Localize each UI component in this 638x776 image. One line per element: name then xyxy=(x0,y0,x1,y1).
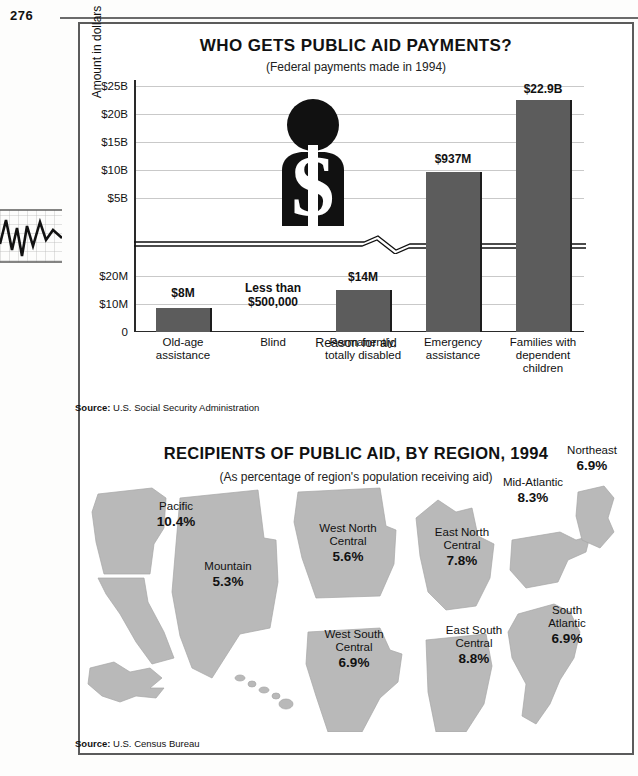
region-name: Mid-Atlantic xyxy=(503,476,563,488)
region-label-northeast: Northeast 6.9% xyxy=(567,444,617,473)
y-tick-label: $20M xyxy=(99,270,128,282)
region-name-line2: Central xyxy=(455,637,492,649)
bar-value-label: $8M xyxy=(171,286,194,300)
region-value: 6.9% xyxy=(548,631,586,646)
chart1-subtitle: (Federal payments made in 1994) xyxy=(80,60,632,74)
region-name-line2: Central xyxy=(329,535,366,547)
region-value: 6.9% xyxy=(324,655,383,670)
bar-chart-public-aid-payments: WHO GETS PUBLIC AID PAYMENTS? (Federal p… xyxy=(80,24,632,414)
page: 276 WHO GETS PUBLIC AID PAYMENTS? (Feder… xyxy=(0,0,638,776)
cat-line: children xyxy=(523,362,563,374)
bar-value-label: $22.9B xyxy=(524,82,563,96)
region-name-line1: West North xyxy=(319,522,376,534)
map-region-mid-atlantic xyxy=(510,532,590,588)
bar-value-label: $937M xyxy=(435,152,472,166)
region-label-east-south-central: East South Central 8.8% xyxy=(446,624,502,666)
region-name-line1: South xyxy=(552,604,582,616)
region-label-mid-atlantic: Mid-Atlantic 8.3% xyxy=(503,476,563,505)
region-value: 10.4% xyxy=(157,514,195,529)
bar-families-with-dependent-children[interactable] xyxy=(516,100,572,332)
chart1-source: Source: U.S. Social Security Administrat… xyxy=(75,402,259,413)
bar-old-age-assistance[interactable] xyxy=(156,308,212,332)
y-axis-line xyxy=(134,80,136,332)
region-name-line2: Atlantic xyxy=(548,617,586,629)
bar-value-label-blind: Less than $500,000 xyxy=(218,282,328,310)
region-label-west-south-central: West South Central 6.9% xyxy=(324,628,383,670)
chart2-source-label: Source: xyxy=(75,738,110,749)
map-chart-recipients-by-region: RECIPIENTS OF PUBLIC AID, BY REGION, 199… xyxy=(80,422,632,755)
map-region-pacific-ca xyxy=(98,578,174,664)
map-region-pacific-hi xyxy=(235,675,293,709)
chart1-title: WHO GETS PUBLIC AID PAYMENTS? xyxy=(80,36,632,56)
region-value: 6.9% xyxy=(567,458,617,473)
chart1-source-label: Source: xyxy=(75,402,110,413)
bar-emergency-assistance[interactable] xyxy=(426,172,482,332)
svg-text:$: $ xyxy=(292,138,335,234)
gridline xyxy=(134,86,584,87)
y-tick-label: $10M xyxy=(99,298,128,310)
region-label-south-atlantic: South Atlantic 6.9% xyxy=(548,604,586,646)
region-label-west-north-central: West North Central 5.6% xyxy=(319,522,376,564)
y-tick-label: $10B xyxy=(101,164,128,176)
region-name: Northeast xyxy=(567,444,617,456)
region-value: 5.6% xyxy=(319,549,376,564)
region-name-line1: West South xyxy=(324,628,383,640)
chart1-source-text: U.S. Social Security Administration xyxy=(113,402,259,413)
region-name: Mountain xyxy=(204,560,251,572)
region-label-east-north-central: East North Central 7.8% xyxy=(435,526,489,568)
page-number: 276 xyxy=(10,8,33,23)
y-tick-label: $15B xyxy=(101,136,128,148)
blind-label-line1: Less than xyxy=(245,281,301,295)
cat-line: assistance xyxy=(426,349,480,361)
person-with-dollar-sign-icon: $ xyxy=(274,98,352,238)
region-name: Pacific xyxy=(159,500,193,512)
chart2-title: RECIPIENTS OF PUBLIC AID, BY REGION, 199… xyxy=(80,444,632,463)
bar-value-label: $14M xyxy=(348,270,378,284)
content-frame: WHO GETS PUBLIC AID PAYMENTS? (Federal p… xyxy=(78,22,634,755)
region-name-line2: Central xyxy=(443,539,480,551)
chart2-source: Source: U.S. Census Bureau xyxy=(75,738,200,749)
region-name-line2: Central xyxy=(335,641,372,653)
region-name-line1: East North xyxy=(435,526,489,538)
region-value: 8.3% xyxy=(503,490,563,505)
blind-label-line2: $500,000 xyxy=(248,295,298,309)
region-label-mountain: Mountain 5.3% xyxy=(204,560,251,589)
chart2-source-text: U.S. Census Bureau xyxy=(113,738,200,749)
map-region-northeast xyxy=(576,486,614,548)
waveform-decoration-icon xyxy=(0,206,62,270)
y-tick-label: $20B xyxy=(101,108,128,120)
cat-line: totally disabled xyxy=(325,349,401,361)
region-value: 8.8% xyxy=(446,651,502,666)
chart1-x-axis-title: Reason for aid xyxy=(80,336,632,350)
header-rule xyxy=(60,17,638,19)
region-value: 7.8% xyxy=(435,553,489,568)
chart1-plot-area: Amount in dollars $25B $20B $15B $10B $5… xyxy=(134,80,584,332)
cat-line: assistance xyxy=(156,349,210,361)
bar-permanently-totally-disabled[interactable] xyxy=(336,290,392,332)
region-name-line1: East South xyxy=(446,624,502,636)
region-label-pacific: Pacific 10.4% xyxy=(157,500,195,529)
map-region-pacific-ak xyxy=(88,662,164,702)
y-tick-label: $25B xyxy=(101,80,128,92)
map-region-pacific-wa-or xyxy=(92,488,166,574)
region-value: 5.3% xyxy=(204,574,251,589)
cat-line: dependent xyxy=(516,349,570,361)
y-tick-label: $5B xyxy=(108,192,128,204)
